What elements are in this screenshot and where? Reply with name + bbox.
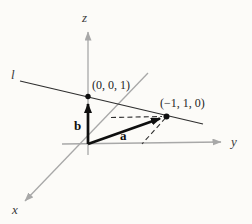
vector-a-label: a <box>120 128 127 143</box>
point-label-0-0-1: (0, 0, 1) <box>92 78 130 92</box>
y-axis <box>62 142 221 144</box>
point-dot-neg1-1-0 <box>164 114 170 120</box>
vector-b-label: b <box>74 118 81 133</box>
3d-vector-diagram: z y x l (0, 0, 1) (−1, 1, 0) b a <box>0 0 252 224</box>
point-dot-0-0-1 <box>85 94 90 99</box>
coordinate-system-figure: z y x l (0, 0, 1) (−1, 1, 0) b a <box>0 0 252 224</box>
point-label-neg1-1-0: (−1, 1, 0) <box>160 96 205 110</box>
x-axis-label: x <box>11 202 18 217</box>
y-axis-label: y <box>229 134 237 149</box>
dashed-projection-parallel-y <box>111 117 162 118</box>
z-axis-label: z <box>81 10 87 25</box>
x-axis <box>25 73 148 201</box>
line-l-label: l <box>11 67 15 82</box>
